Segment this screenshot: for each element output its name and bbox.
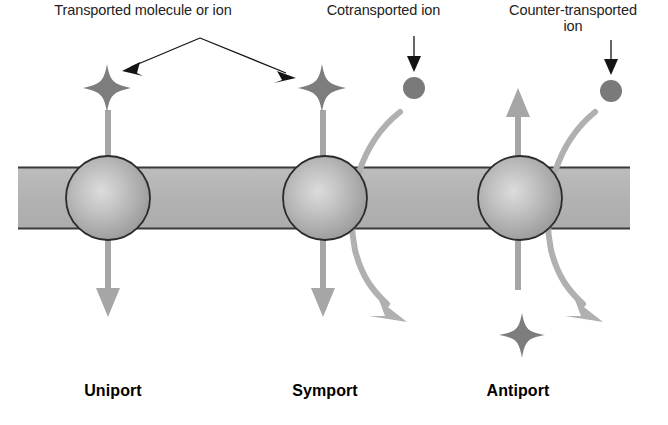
antiport-protein — [478, 156, 562, 240]
label-cotransported-ion: Cotransported ion — [286, 2, 481, 18]
counter-pointer-arrow — [604, 40, 618, 75]
cotransported-ion-circle — [403, 77, 425, 99]
label-transported-molecule: Transported molecule or ion — [8, 2, 278, 18]
label-symport: Symport — [270, 382, 380, 400]
cotransported-pointer-arrow — [407, 36, 421, 72]
label-counter-transported-ion: Counter-transported ion — [478, 2, 668, 34]
counter-transported-ion-circle — [600, 80, 622, 102]
antiport-star-bottom — [499, 313, 545, 358]
diagram-graphics — [0, 0, 668, 425]
label-uniport: Uniport — [58, 382, 168, 400]
label-antiport: Antiport — [463, 382, 573, 400]
symport-protein — [283, 156, 367, 240]
transport-protein-diagram: Transported molecule or ion Cotransporte… — [0, 0, 668, 425]
symport-star-top — [298, 64, 346, 112]
uniport-protein — [66, 156, 150, 240]
branching-pointer-arrow — [122, 38, 296, 83]
